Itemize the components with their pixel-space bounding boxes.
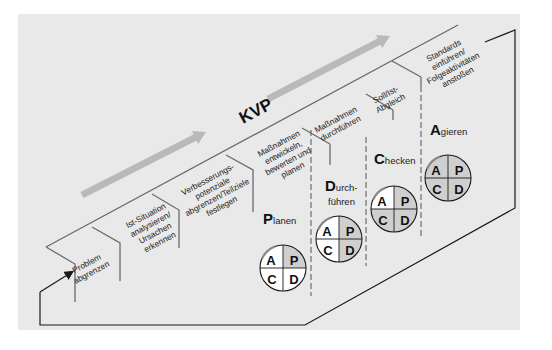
svg-text:Problemabgrenzen: Problemabgrenzen	[67, 250, 111, 286]
svg-text:führen: führen	[328, 196, 355, 207]
phase-label-durchfuehren: Durch- führen	[325, 177, 358, 207]
pdca-circle-agieren: A P C D	[425, 155, 471, 201]
step-label-2: Ist-Situationanalysieren/Ursachenerkenne…	[123, 200, 182, 257]
svg-text:P: P	[455, 163, 464, 178]
step-label-5: Maßnahmendurchführen	[313, 104, 364, 144]
step-label-1: Problemabgrenzen	[67, 250, 111, 286]
phase-label-agieren: Agieren	[430, 121, 467, 138]
svg-text:Soll/Ist-Abgleich: Soll/Ist-Abgleich	[369, 82, 407, 115]
svg-text:D: D	[454, 182, 463, 197]
phase-label-checken: Checken	[374, 150, 415, 167]
svg-text:P: P	[346, 224, 355, 239]
svg-text:A: A	[431, 163, 441, 178]
svg-text:A: A	[266, 253, 276, 268]
step-label-6: Soll/Ist-Abgleich	[369, 82, 407, 115]
svg-text:P: P	[401, 194, 410, 209]
svg-text:Durch-: Durch-	[325, 177, 358, 194]
step-label-4: Maßnahmenentwickeln,bewerten undplanen	[254, 127, 318, 186]
svg-text:A: A	[322, 224, 332, 239]
svg-text:C: C	[267, 272, 277, 287]
pdca-circle-checken: A P C D	[371, 186, 417, 232]
svg-text:Maßnahmenentwickeln,bewerten u: Maßnahmenentwickeln,bewerten undplanen	[254, 127, 318, 186]
phase-label-planen: Planen	[263, 210, 296, 227]
svg-text:A: A	[377, 194, 387, 209]
svg-text:D: D	[345, 243, 354, 258]
svg-text:Maßnahmendurchführen: Maßnahmendurchführen	[313, 104, 364, 144]
progress-arrow-right	[268, 35, 390, 99]
svg-text:P: P	[290, 253, 299, 268]
svg-text:C: C	[378, 213, 388, 228]
svg-text:Verbesserungs-potenzialeabgren: Verbesserungs-potenzialeabgrenzen/Teilzi…	[174, 158, 256, 227]
svg-text:C: C	[432, 182, 442, 197]
pdca-circle-durchfuehren: A P C D	[316, 216, 362, 262]
svg-text:Ist-Situationanalysieren/Ursac: Ist-Situationanalysieren/Ursachenerkenne…	[123, 200, 182, 257]
svg-text:D: D	[400, 213, 409, 228]
step-label-3: Verbesserungs-potenzialeabgrenzen/Teilzi…	[174, 158, 256, 227]
pdca-circle-planen: A P C D	[260, 245, 306, 291]
svg-text:C: C	[323, 243, 333, 258]
svg-text:D: D	[289, 272, 298, 287]
kvp-diagram: KVP Problemabgrenzen Ist-Situationanalys…	[0, 0, 552, 350]
